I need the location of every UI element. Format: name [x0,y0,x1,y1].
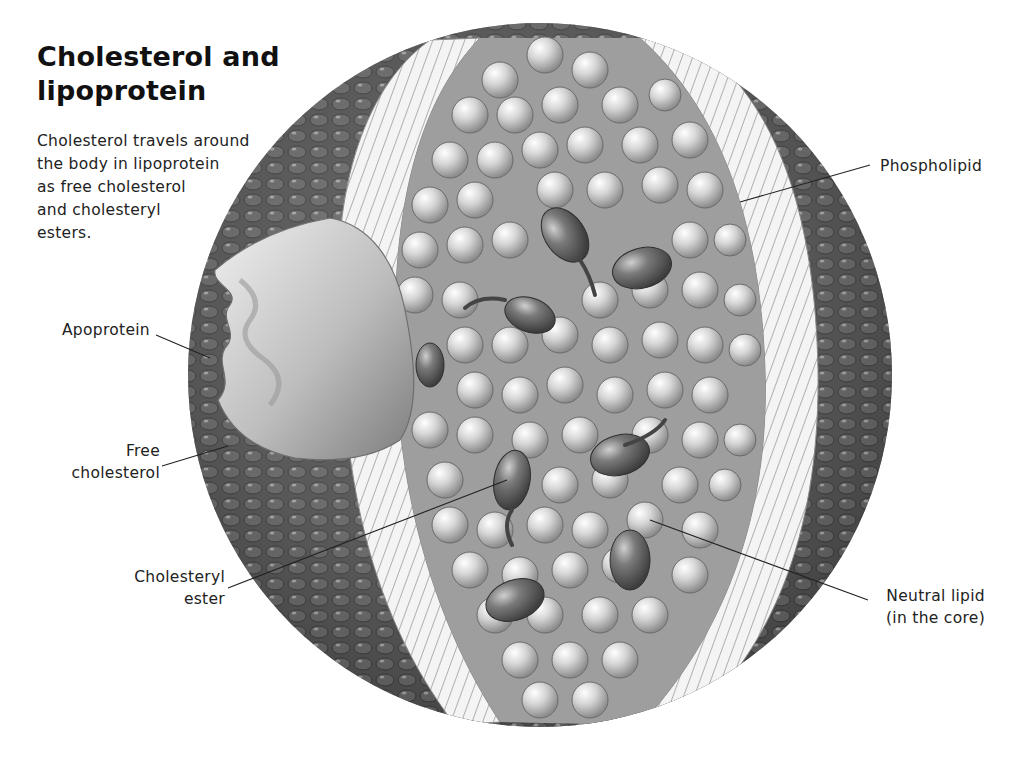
label-phospholipid: Phospholipid [880,155,982,177]
label-neutral-lipid-line1: Neutral lipid [860,585,985,607]
intro-line: as free cholesterol [37,176,277,199]
label-cholesteryl-ester: Cholesteryl ester [100,566,225,610]
label-neutral-lipid-line2: (in the core) [860,607,985,629]
intro-paragraph: Cholesterol travels around the body in l… [37,130,277,245]
label-free-cholesterol-line2: cholesterol [40,462,160,484]
label-cholesteryl-ester-line2: ester [100,588,225,610]
title-line-2: lipoprotein [37,74,297,108]
label-cholesteryl-ester-line1: Cholesteryl [100,566,225,588]
label-phospholipid-text: Phospholipid [880,155,982,177]
label-apoprotein-text: Apoprotein [40,319,150,341]
label-apoprotein: Apoprotein [40,319,150,341]
diagram-title: Cholesterol and lipoprotein [37,40,297,108]
label-free-cholesterol: Free cholesterol [40,440,160,484]
intro-line: esters. [37,222,277,245]
lipoprotein-illustration [0,0,1016,758]
label-neutral-lipid: Neutral lipid (in the core) [860,585,985,629]
intro-line: Cholesterol travels around [37,130,277,153]
title-line-1: Cholesterol and [37,40,297,74]
label-free-cholesterol-line1: Free [40,440,160,462]
intro-line: and cholesteryl [37,199,277,222]
intro-line: the body in lipoprotein [37,153,277,176]
